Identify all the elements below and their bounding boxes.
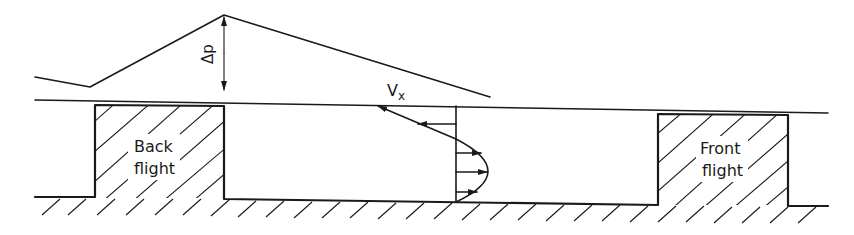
velocity-label: Vx xyxy=(387,81,405,103)
back-flight-label-2: flight xyxy=(134,159,175,178)
delta-p-label: Δp xyxy=(199,44,217,64)
front-flight-label-2: flight xyxy=(702,161,743,180)
pressure-profile xyxy=(35,15,490,97)
velocity-profile xyxy=(378,106,488,202)
back-flight-label: Back xyxy=(134,137,174,156)
screw-channel-diagram: Δp Vx Back flight Front flight xyxy=(0,0,854,235)
front-flight-label: Front xyxy=(700,139,740,158)
